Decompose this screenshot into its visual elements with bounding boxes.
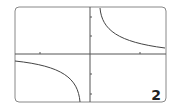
graph-panel: [0, 0, 173, 110]
panel-number-label: 2: [151, 88, 161, 102]
